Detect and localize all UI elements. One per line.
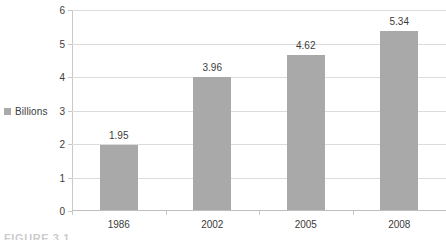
bar-2008[interactable] <box>380 31 418 210</box>
figure-container: Billions 0123456 1986200220052008 1.953.… <box>0 0 446 240</box>
y-tick-label-4: 4 <box>59 72 65 83</box>
bar-2002[interactable] <box>193 77 231 210</box>
x-tick-mark-0 <box>72 211 73 215</box>
y-tick-label-5: 5 <box>59 38 65 49</box>
y-tick-mark-2 <box>68 144 72 145</box>
bar-2005[interactable] <box>287 55 325 210</box>
bar-value-label-2008: 5.34 <box>390 16 409 27</box>
y-tick-label-2: 2 <box>59 139 65 150</box>
y-tick-mark-3 <box>68 111 72 112</box>
plot-area: 0123456 1986200220052008 1.953.964.625.3… <box>72 10 446 211</box>
figure-caption: FIGURE 3.1 <box>4 232 70 240</box>
x-tick-label-1986: 1986 <box>108 219 130 230</box>
bar-value-label-1986: 1.95 <box>109 130 128 141</box>
x-tick-mark-3 <box>353 211 354 215</box>
y-tick-mark-6 <box>68 10 72 11</box>
x-tick-label-2005: 2005 <box>295 219 317 230</box>
chart-legend: Billions <box>4 106 47 117</box>
y-tick-label-3: 3 <box>59 105 65 116</box>
x-tick-mark-1 <box>166 211 167 215</box>
x-tick-label-2002: 2002 <box>201 219 223 230</box>
legend-swatch-billions-icon <box>4 108 11 115</box>
bar-value-label-2005: 4.62 <box>296 40 315 51</box>
x-tick-label-2008: 2008 <box>388 219 410 230</box>
y-tick-label-0: 0 <box>59 206 65 217</box>
bar-1986[interactable] <box>100 145 138 210</box>
y-tick-label-1: 1 <box>59 172 65 183</box>
y-tick-label-6: 6 <box>59 5 65 16</box>
y-tick-mark-5 <box>68 44 72 45</box>
bar-value-label-2002: 3.96 <box>203 62 222 73</box>
x-tick-mark-2 <box>259 211 260 215</box>
y-tick-mark-4 <box>68 77 72 78</box>
gridline-6 <box>72 10 446 11</box>
legend-label-billions: Billions <box>15 106 47 117</box>
y-tick-mark-1 <box>68 178 72 179</box>
